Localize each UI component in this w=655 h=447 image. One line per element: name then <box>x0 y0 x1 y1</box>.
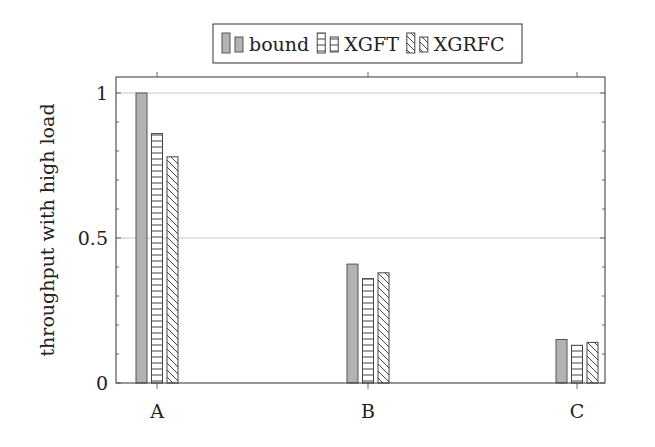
legend-swatch-bound <box>222 33 230 53</box>
y-tick-labels: 00.51 <box>78 82 108 394</box>
legend-label-xgrfc: XGRFC <box>434 33 505 55</box>
y-tick-label: 1 <box>96 82 108 104</box>
legend-swatch-bound <box>235 37 243 52</box>
x-tick-labels: ABC <box>149 400 584 422</box>
legend-swatch-xgrfc <box>420 37 428 52</box>
x-tick-label: C <box>570 400 585 422</box>
plot-frame <box>116 77 605 383</box>
legend-swatch-xgft <box>317 33 325 53</box>
bar-bound-b <box>347 264 358 383</box>
bar-xgft-a <box>152 134 163 383</box>
bar-bound-c <box>556 340 567 384</box>
y-tick-label: 0.5 <box>78 227 108 249</box>
x-tick-label: B <box>361 400 375 422</box>
axis-ticks <box>116 72 605 389</box>
legend-label-xgft: XGFT <box>344 33 399 55</box>
bar-xgrfc-a <box>167 157 178 383</box>
legend-swatch-xgrfc <box>407 33 415 53</box>
legend-label-bound: bound <box>249 33 309 55</box>
bar-xgrfc-c <box>587 342 598 383</box>
x-tick-label: A <box>149 400 164 422</box>
legend-swatch-xgft <box>330 37 338 52</box>
bar-xgrfc-b <box>378 273 389 383</box>
y-axis-label: throughput with high load <box>36 103 58 356</box>
gridlines <box>116 93 605 238</box>
legend: boundXGFTXGRFC <box>213 24 522 63</box>
bar-bound-a <box>136 93 147 383</box>
y-tick-label: 0 <box>96 372 108 394</box>
bar-chart: 00.51 ABC throughput with high load boun… <box>0 0 655 447</box>
bar-xgft-b <box>363 279 374 383</box>
bar-xgft-c <box>572 345 583 383</box>
